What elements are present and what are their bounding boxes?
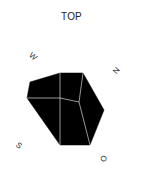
solid-outline [27, 73, 104, 145]
solid-top-view-diagram [0, 0, 143, 181]
